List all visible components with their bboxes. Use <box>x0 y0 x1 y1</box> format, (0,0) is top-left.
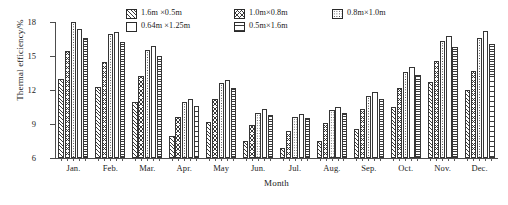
x-tick-group <box>92 158 129 162</box>
x-tick <box>264 158 265 161</box>
bar-group-apr <box>166 22 203 158</box>
bar <box>108 34 113 158</box>
x-tick <box>289 158 290 161</box>
x-tick <box>79 158 80 161</box>
bar <box>83 38 88 158</box>
bar <box>151 46 156 158</box>
x-tick <box>172 158 173 161</box>
bar <box>182 102 187 158</box>
bar <box>175 117 180 158</box>
bar <box>292 117 297 158</box>
bar <box>157 56 162 158</box>
bar <box>409 67 414 158</box>
bar <box>465 90 470 158</box>
x-tick <box>85 158 86 161</box>
x-tick <box>215 158 216 161</box>
x-tick <box>436 158 437 161</box>
bar <box>403 72 408 158</box>
x-tick-label: Oct. <box>387 163 424 177</box>
x-tick-group <box>387 158 424 162</box>
x-axis-ticks <box>55 158 498 162</box>
bar <box>262 109 267 158</box>
bar <box>391 107 396 158</box>
x-tick <box>258 158 259 161</box>
x-tick <box>153 158 154 161</box>
x-tick <box>326 158 327 161</box>
bar <box>477 38 482 158</box>
legend-item-1[interactable]: 1.0m×0.8m <box>234 7 332 20</box>
x-tick-label: Jul. <box>277 163 314 177</box>
bar <box>255 113 260 158</box>
bar <box>194 106 199 158</box>
bar <box>206 122 211 158</box>
x-tick <box>442 158 443 161</box>
x-axis-tick-labels: Jan.Feb.Mar.Apr.MayJun.Jul.Aug.Sep.Oct.N… <box>55 163 498 177</box>
x-tick-label: Mar. <box>129 163 166 177</box>
legend-label: 1.6m ×0.5m <box>141 9 182 17</box>
x-axis-title: Month <box>55 178 498 188</box>
x-tick <box>141 158 142 161</box>
x-tick-group <box>203 158 240 162</box>
bar <box>77 29 82 158</box>
bar-group-sep <box>350 22 387 158</box>
bar <box>114 32 119 158</box>
bar <box>342 113 347 158</box>
x-tick-group <box>166 158 203 162</box>
bar-group-aug <box>313 22 350 158</box>
bar <box>354 129 359 158</box>
x-tick <box>233 158 234 161</box>
bar <box>483 31 488 158</box>
bar <box>489 44 494 158</box>
bar <box>305 118 310 158</box>
bar <box>428 82 433 158</box>
x-tick <box>184 158 185 161</box>
bar <box>452 47 457 158</box>
x-tick <box>116 158 117 161</box>
bar <box>286 131 291 158</box>
bar <box>335 107 340 158</box>
x-tick-group <box>461 158 498 162</box>
bar <box>397 88 402 158</box>
bar <box>65 51 70 158</box>
bar <box>58 79 63 158</box>
x-tick <box>485 158 486 161</box>
bar <box>145 50 150 158</box>
x-tick <box>473 158 474 161</box>
legend-item-0[interactable]: 1.6m ×0.5m <box>126 7 234 20</box>
bar <box>323 123 328 158</box>
bar <box>212 99 217 158</box>
bar-group-jun <box>240 22 277 158</box>
bar <box>225 80 230 158</box>
x-tick <box>73 158 74 161</box>
legend-swatch-chevron-hatch-icon <box>234 9 245 19</box>
x-tick-label: Jan. <box>55 163 92 177</box>
bar <box>231 88 236 158</box>
x-tick-group <box>277 158 314 162</box>
x-tick <box>320 158 321 161</box>
legend-label: 1.0m×0.8m <box>249 9 288 17</box>
bar-group-nov <box>424 22 461 158</box>
bar <box>379 99 384 158</box>
x-tick-label: May <box>203 163 240 177</box>
bar <box>102 62 107 158</box>
thermal-efficiency-bar-chart: 1.6m ×0.5m1.0m×0.8m0.8m×1.0m0.64m ×1.25m… <box>0 0 508 205</box>
legend-swatch-dotted-icon <box>332 9 343 19</box>
x-tick <box>110 158 111 161</box>
legend-item-2[interactable]: 0.8m×1.0m <box>332 7 426 20</box>
x-tick <box>147 158 148 161</box>
bar <box>471 71 476 158</box>
x-tick <box>227 158 228 161</box>
x-tick-group <box>313 158 350 162</box>
x-tick <box>448 158 449 161</box>
bar-group-mar <box>129 22 166 158</box>
x-tick <box>362 158 363 161</box>
x-tick <box>399 158 400 161</box>
x-tick <box>356 158 357 161</box>
x-tick <box>332 158 333 161</box>
x-tick-group <box>129 158 166 162</box>
x-tick-label: Apr. <box>166 163 203 177</box>
x-tick-label: Dec. <box>461 163 498 177</box>
bar <box>120 42 125 158</box>
x-tick <box>246 158 247 161</box>
bar <box>219 83 224 158</box>
